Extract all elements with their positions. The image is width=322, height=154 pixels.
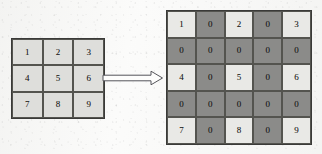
- source-cell: 9: [73, 92, 104, 118]
- dilated-cell: 4: [167, 64, 196, 91]
- source-cell: 6: [73, 65, 104, 91]
- dilated-cell: 3: [282, 11, 311, 38]
- dilated-cell: 0: [167, 38, 196, 65]
- source-cell: 4: [12, 65, 43, 91]
- dilated-cell: 0: [282, 38, 311, 65]
- dilated-cell: 0: [196, 64, 225, 91]
- source-cell: 7: [12, 92, 43, 118]
- dilated-cell: 0: [282, 91, 311, 118]
- dilated-cell: 0: [253, 117, 282, 144]
- source-cell: 1: [12, 39, 43, 65]
- dilated-cell: 0: [196, 38, 225, 65]
- dilated-cell: 0: [167, 91, 196, 118]
- dilated-matrix: 1 0 2 0 3 0 0 0 0 0 4 0 5 0 6 0 0 0 0 0 …: [166, 10, 312, 145]
- dilated-cell: 6: [282, 64, 311, 91]
- dilated-cell: 0: [253, 11, 282, 38]
- source-cell: 5: [43, 65, 74, 91]
- dilated-cell: 5: [225, 64, 254, 91]
- dilated-cell: 1: [167, 11, 196, 38]
- dilated-cell: 0: [253, 91, 282, 118]
- dilated-cell: 0: [253, 64, 282, 91]
- source-cell: 8: [43, 92, 74, 118]
- source-cell: 3: [73, 39, 104, 65]
- dilated-cell: 0: [253, 38, 282, 65]
- dilated-cell: 0: [196, 91, 225, 118]
- dilated-cell: 2: [225, 11, 254, 38]
- dilated-cell: 8: [225, 117, 254, 144]
- source-matrix: 1 2 3 4 5 6 7 8 9: [11, 38, 105, 119]
- dilated-cell: 0: [196, 117, 225, 144]
- dilated-cell: 0: [225, 91, 254, 118]
- dilated-cell: 7: [167, 117, 196, 144]
- dilated-cell: 0: [225, 38, 254, 65]
- right-arrow-icon: [102, 68, 164, 88]
- dilated-cell: 0: [196, 11, 225, 38]
- dilated-cell: 9: [282, 117, 311, 144]
- source-cell: 2: [43, 39, 74, 65]
